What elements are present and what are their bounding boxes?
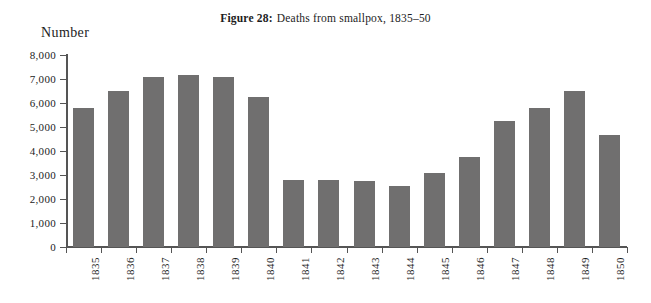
x-axis-tick-label: 1850 xyxy=(614,257,626,281)
x-axis-tick-label: 1848 xyxy=(544,257,556,281)
x-axis-tick-label: 1840 xyxy=(264,257,276,281)
x-axis-tick-labels: 1835183618371838183918401841184218431844… xyxy=(0,0,651,303)
x-axis-tick-label: 1845 xyxy=(439,257,451,281)
x-axis-tick xyxy=(382,247,383,253)
x-axis-tick-label: 1844 xyxy=(404,257,416,281)
x-axis-tick xyxy=(66,247,67,253)
x-axis-tick xyxy=(241,247,242,253)
x-axis-tick xyxy=(452,247,453,253)
x-axis-tick-label: 1836 xyxy=(124,257,136,281)
x-axis-tick xyxy=(101,247,102,253)
x-axis-tick-label: 1849 xyxy=(579,257,591,281)
x-axis-tick xyxy=(487,247,488,253)
x-axis-tick-label: 1846 xyxy=(474,257,486,281)
x-axis-tick-label: 1841 xyxy=(299,257,311,281)
x-axis-tick-label: 1839 xyxy=(229,257,241,281)
x-axis-tick xyxy=(206,247,207,253)
x-axis-tick-label: 1837 xyxy=(159,257,171,281)
x-axis-tick-label: 1847 xyxy=(509,257,521,281)
x-axis-tick xyxy=(557,247,558,253)
x-axis-tick xyxy=(276,247,277,253)
figure-page: Figure 28:Deaths from smallpox, 1835–50 … xyxy=(0,0,651,303)
x-axis-tick-label: 1842 xyxy=(334,257,346,281)
x-axis-tick xyxy=(522,247,523,253)
x-axis-tick xyxy=(627,247,628,253)
x-axis-tick xyxy=(592,247,593,253)
x-axis-tick xyxy=(417,247,418,253)
x-axis-tick xyxy=(347,247,348,253)
x-axis-tick-label: 1838 xyxy=(194,257,206,281)
x-axis-tick-label: 1843 xyxy=(369,257,381,281)
x-axis-tick-label: 1835 xyxy=(89,257,101,281)
x-axis-tick xyxy=(311,247,312,253)
x-axis-tick xyxy=(136,247,137,253)
x-axis-tick xyxy=(171,247,172,253)
